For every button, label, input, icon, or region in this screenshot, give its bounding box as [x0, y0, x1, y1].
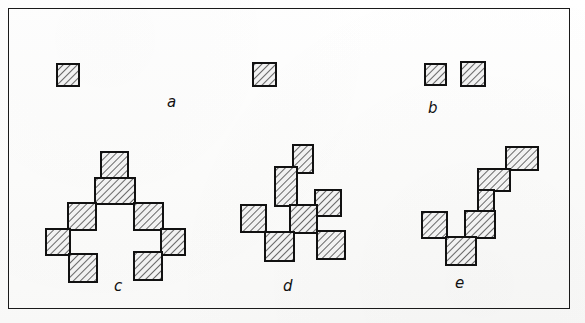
hatched-square — [290, 205, 317, 233]
label-b: b — [428, 101, 438, 116]
hatched-square — [69, 254, 97, 282]
hatched-square — [478, 169, 510, 191]
hatched-square — [134, 203, 163, 230]
clusters-layer — [46, 62, 538, 282]
cluster-e — [422, 147, 538, 265]
hatched-square — [95, 178, 135, 204]
hatched-square — [315, 190, 341, 216]
cluster-d — [241, 145, 345, 261]
hatched-square — [275, 167, 297, 206]
cluster-drawing-canvas — [0, 0, 585, 323]
hatched-square — [465, 211, 495, 238]
hatched-square — [265, 232, 294, 261]
hatched-square — [317, 231, 345, 259]
cluster-b — [425, 62, 485, 86]
hatched-square — [57, 64, 79, 86]
hatched-square — [161, 229, 185, 255]
label-e: e — [455, 276, 464, 291]
hatched-square — [506, 147, 538, 170]
hatched-square — [134, 252, 162, 280]
hatched-square — [46, 229, 70, 255]
cluster-c — [46, 152, 185, 282]
hatched-square — [101, 152, 128, 179]
hatched-square — [425, 64, 446, 85]
hatched-square — [422, 212, 447, 238]
label-a: a — [167, 95, 176, 110]
figure-root: abcde — [0, 0, 585, 323]
hatched-square — [446, 237, 476, 265]
hatched-square — [241, 205, 266, 232]
hatched-square — [461, 62, 485, 86]
hatched-square — [478, 190, 494, 212]
hatched-square — [253, 63, 276, 86]
cluster-a — [57, 63, 276, 86]
hatched-square — [68, 203, 96, 230]
label-d: d — [283, 279, 293, 294]
label-c: c — [114, 279, 122, 294]
